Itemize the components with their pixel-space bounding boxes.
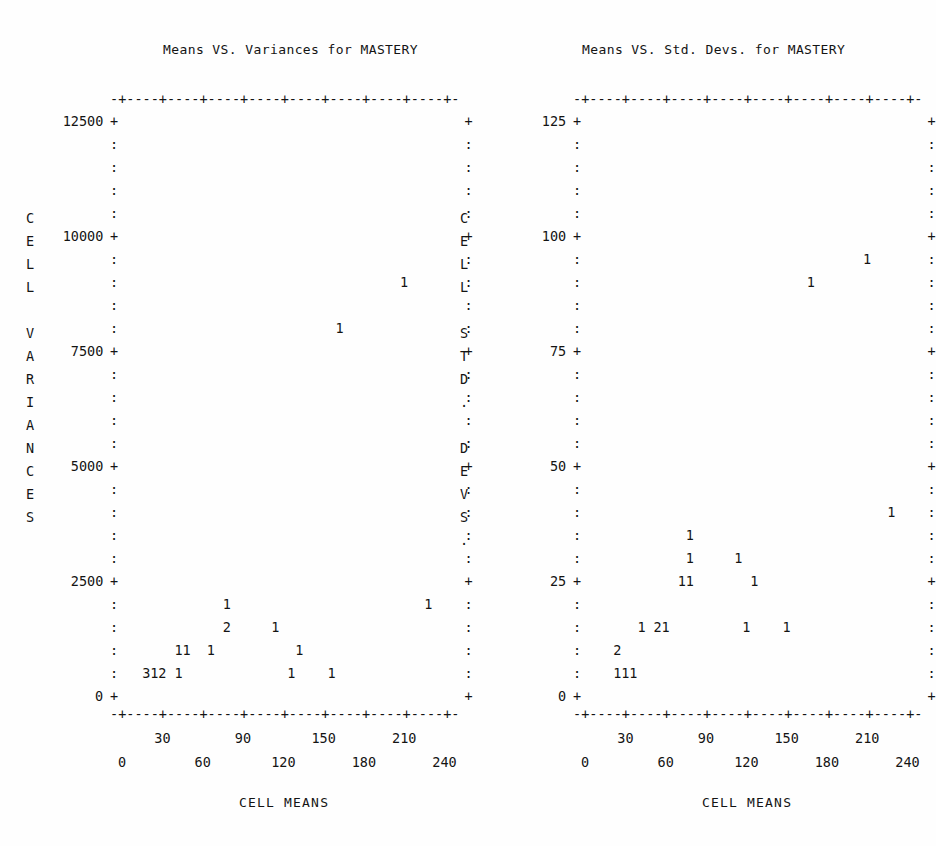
- y-axis-tick: +: [110, 575, 118, 589]
- y-axis-minor: :: [110, 483, 118, 497]
- y-axis-minor: :: [110, 276, 118, 290]
- y-axis-minor: :: [573, 368, 581, 382]
- y-axis-minor-right: :: [928, 414, 936, 428]
- data-point-glyph: 1: [295, 644, 303, 658]
- y-axis-minor: :: [110, 161, 118, 175]
- y-axis-minor-right: :: [928, 529, 936, 543]
- y-axis-tick-right: +: [928, 345, 936, 359]
- y-axis-minor: :: [573, 506, 581, 520]
- y-tick-label: 10000: [63, 230, 104, 244]
- y-axis-minor: :: [110, 644, 118, 658]
- y-axis-minor: :: [110, 299, 118, 313]
- y-axis-minor: :: [110, 207, 118, 221]
- y-axis-tick: +: [110, 460, 118, 474]
- x-tick-label-upper: 210: [392, 732, 416, 746]
- data-point-glyph: 1: [621, 667, 629, 681]
- y-axis-minor: :: [110, 621, 118, 635]
- y-axis-minor-right: :: [928, 184, 936, 198]
- y-axis-title-char: .: [460, 391, 468, 414]
- y-axis-title-char: N: [26, 437, 34, 460]
- y-axis-title-char: L: [26, 253, 34, 276]
- x-tick-label-upper: 30: [154, 732, 170, 746]
- x-tick-label-lower: 120: [271, 756, 295, 770]
- y-axis-minor: :: [573, 391, 581, 405]
- y-axis-minor: :: [110, 529, 118, 543]
- y-axis-minor: :: [573, 552, 581, 566]
- data-point-glyph: 1: [271, 621, 279, 635]
- y-axis-tick-right: +: [465, 115, 473, 129]
- data-point-glyph: 1: [783, 621, 791, 635]
- y-axis-minor-right: :: [465, 644, 473, 658]
- y-axis-minor-right: :: [465, 552, 473, 566]
- y-axis-minor-right: :: [928, 644, 936, 658]
- x-tick-label-upper: 150: [311, 732, 335, 746]
- data-point-glyph: 1: [686, 529, 694, 543]
- y-axis-title-char: S: [460, 506, 468, 529]
- y-axis-minor: :: [110, 598, 118, 612]
- data-point-glyph: 3: [142, 667, 150, 681]
- y-axis-minor-right: :: [928, 391, 936, 405]
- data-point-glyph: 1: [678, 575, 686, 589]
- y-axis-title-char: E: [460, 230, 468, 253]
- y-axis-minor-right: :: [928, 161, 936, 175]
- y-axis-minor-right: :: [465, 138, 473, 152]
- y-axis-title-char: T: [460, 345, 468, 368]
- y-axis-tick-right: +: [465, 575, 473, 589]
- data-point-glyph: 1: [174, 644, 182, 658]
- y-axis-minor: :: [573, 322, 581, 336]
- y-tick-label: 7500: [71, 345, 104, 359]
- data-point-glyph: 1: [807, 276, 815, 290]
- y-axis-minor-right: :: [465, 667, 473, 681]
- y-axis-minor: :: [110, 506, 118, 520]
- x-tick-label-upper: 90: [698, 732, 714, 746]
- y-axis-minor-right: :: [928, 483, 936, 497]
- y-axis-tick: +: [573, 115, 581, 129]
- y-axis-title-char: V: [460, 483, 468, 506]
- x-tick-label-lower: 0: [581, 756, 589, 770]
- plot-frame-bottom: -+----+----+----+----+----+----+----+---…: [110, 708, 460, 722]
- y-axis-tick-right: +: [928, 230, 936, 244]
- y-axis-title-char: V: [26, 322, 34, 345]
- data-point-glyph: 1: [182, 644, 190, 658]
- data-point-glyph: 1: [863, 253, 871, 267]
- left-plot-title: Means VS. Variances for MASTERY: [163, 42, 418, 57]
- y-axis-tick: +: [110, 115, 118, 129]
- y-axis-title-char: C: [26, 460, 34, 483]
- y-axis-title-char: S: [26, 506, 34, 529]
- data-point-glyph: 1: [742, 621, 750, 635]
- y-axis-title-char: L: [460, 253, 468, 276]
- y-axis-minor: :: [110, 414, 118, 428]
- y-axis-minor-right: :: [928, 621, 936, 635]
- y-axis-minor: :: [110, 138, 118, 152]
- y-tick-label: 125: [542, 115, 566, 129]
- data-point-glyph: 1: [750, 575, 758, 589]
- data-point-glyph: 2: [613, 644, 621, 658]
- x-tick-label-lower: 240: [432, 756, 456, 770]
- y-axis-minor-right: :: [928, 299, 936, 313]
- y-axis-minor-right: :: [928, 322, 936, 336]
- y-axis-minor: :: [573, 276, 581, 290]
- y-axis-minor-right: :: [928, 667, 936, 681]
- x-tick-label-lower: 0: [118, 756, 126, 770]
- plot-frame-top: -+----+----+----+----+----+----+----+---…: [110, 93, 460, 107]
- y-axis-minor: :: [573, 138, 581, 152]
- y-axis-title-char: D: [460, 437, 468, 460]
- y-axis-minor: :: [573, 621, 581, 635]
- y-axis-minor-right: :: [928, 552, 936, 566]
- x-tick-label-lower: 120: [734, 756, 758, 770]
- y-axis-minor-right: :: [465, 598, 473, 612]
- y-axis-minor: :: [573, 667, 581, 681]
- y-axis-minor: :: [110, 184, 118, 198]
- y-axis-minor: :: [110, 667, 118, 681]
- y-tick-label: 0: [95, 690, 103, 704]
- y-axis-minor-right: :: [928, 138, 936, 152]
- data-point-glyph: 1: [287, 667, 295, 681]
- y-axis-title-char: I: [26, 391, 34, 414]
- y-axis-tick: +: [573, 230, 581, 244]
- y-axis-tick: +: [573, 460, 581, 474]
- x-tick-label-upper: 150: [774, 732, 798, 746]
- y-axis-minor-right: :: [928, 276, 936, 290]
- x-tick-label-lower: 180: [815, 756, 839, 770]
- y-axis-minor-right: :: [928, 506, 936, 520]
- y-axis-tick: +: [573, 575, 581, 589]
